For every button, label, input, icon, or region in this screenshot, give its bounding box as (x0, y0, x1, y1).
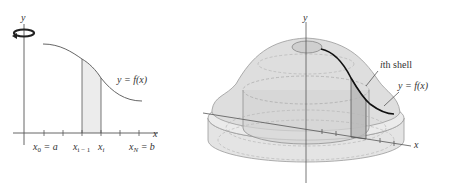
figure-canvas: y x y = f(x) x0 = a xi − 1 xi xN = b (0, 0, 449, 194)
ith-shell-label: ith shell (380, 59, 412, 70)
shaded-strip (82, 59, 101, 133)
top-hole (292, 41, 322, 53)
x-axis-label: x (152, 128, 158, 139)
tick-label-xi: xi (97, 141, 104, 154)
curve-label: y = f(x) (116, 74, 148, 86)
left-figure: y x y = f(x) x0 = a xi − 1 xi xN = b (12, 12, 158, 154)
y-axis-label: y (20, 12, 26, 23)
right-figure: y x ith shell y = f(x) (203, 12, 429, 183)
rotation-arrow-icon (12, 30, 34, 40)
tick-label-xN: xN = b (128, 141, 155, 154)
y-axis-label-3d: y (302, 12, 308, 23)
curve-label-3d: y = f(x) (397, 80, 429, 92)
tick-label-x0: x0 = a (32, 141, 58, 154)
tick-label-xi-minus-1: xi − 1 (72, 141, 91, 154)
x-axis-label-3d: x (413, 139, 419, 150)
